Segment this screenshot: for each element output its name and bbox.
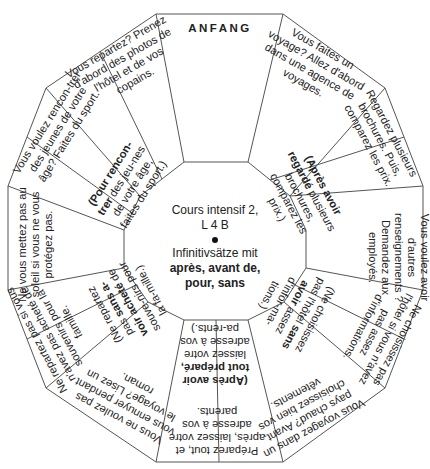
lesson-label: L 4 B [140, 218, 290, 233]
course-title: Cours intensif 2, [140, 203, 290, 218]
square-sun: Ne vous mettez pas au soleil si vous ne … [16, 180, 55, 310]
game-board: ANFANG Vous faites un voyage? Allez d'ab… [0, 0, 430, 469]
start-label: ANFANG [165, 22, 275, 35]
bullet-dot-icon [212, 237, 218, 243]
square-prepare-solution: (Après avoir tout préparé, laissez votre… [172, 322, 258, 387]
center-title-box: Cours intensif 2, L 4 B Infinitivsätze m… [140, 203, 290, 291]
topic-label: Infinitivsätze mit [140, 246, 290, 261]
topic-keywords-1: après, avant de, [140, 261, 290, 276]
topic-keywords-2: pour, sans [140, 276, 290, 291]
